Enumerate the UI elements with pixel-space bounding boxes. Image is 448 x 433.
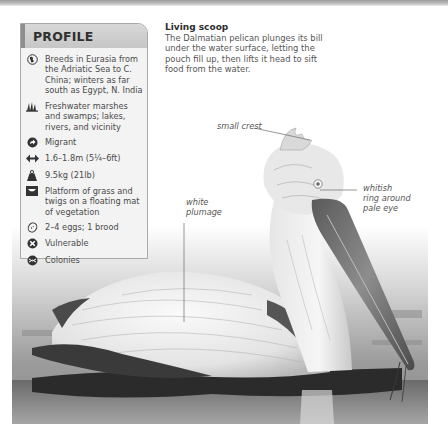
profile-item-wingspan: 1.6–1.8m (5¼–6ft) — [25, 153, 143, 164]
photo-caption: Living scoop The Dalmatian pelican plung… — [165, 22, 325, 75]
profile-status-text: Vulnerable — [45, 238, 143, 248]
marsh-grass-icon — [25, 101, 39, 112]
wingspan-icon — [25, 153, 39, 164]
egg-icon — [25, 222, 39, 233]
profile-eggs-text: 2–4 eggs; 1 brood — [45, 222, 143, 232]
annotation-eye-line1: whitish — [363, 183, 411, 193]
annotation-eye-line2: ring around — [363, 193, 411, 203]
status-cross-icon — [25, 238, 39, 249]
nest-icon — [25, 186, 39, 197]
weight-icon — [25, 170, 39, 181]
profile-item-nest: Platform of grass and twigs on a floatin… — [25, 186, 143, 217]
profile-item-status: Vulnerable — [25, 238, 143, 249]
caption-body: The Dalmatian pelican plunges its bill u… — [165, 33, 325, 75]
profile-item-range: Breeds in Eurasia from the Adriatic Sea … — [25, 54, 143, 96]
colonies-icon — [25, 255, 39, 266]
profile-title: PROFILE — [21, 24, 147, 48]
profile-panel: PROFILE Breeds in Eurasia from the Adria… — [20, 23, 148, 259]
page-top-rule — [0, 0, 448, 6]
annotation-eye-line3: pale eye — [363, 203, 411, 213]
profile-wingspan-text: 1.6–1.8m (5¼–6ft) — [45, 153, 143, 163]
annotation-small-crest: small crest — [217, 121, 262, 131]
profile-social-text: Colonies — [45, 255, 143, 265]
profile-list: Breeds in Eurasia from the Adriatic Sea … — [21, 48, 147, 266]
profile-nest-text: Platform of grass and twigs on a floatin… — [45, 186, 143, 217]
annotation-white-plumage: white plumage — [186, 197, 222, 217]
annotation-eye-ring: whitish ring around pale eye — [363, 183, 411, 213]
profile-habitat-text: Freshwater marshes and swamps; lakes, ri… — [45, 101, 143, 132]
profile-item-migration: Migrant — [25, 137, 143, 148]
profile-weight-text: 9.5kg (21lb) — [45, 170, 143, 180]
profile-item-weight: 9.5kg (21lb) — [25, 170, 143, 181]
annotation-plumage-line1: white — [186, 197, 222, 207]
profile-item-social: Colonies — [25, 255, 143, 266]
caption-title: Living scoop — [165, 22, 325, 33]
globe-icon — [25, 54, 39, 65]
profile-item-eggs: 2–4 eggs; 1 brood — [25, 222, 143, 233]
profile-range-text: Breeds in Eurasia from the Adriatic Sea … — [45, 54, 143, 96]
annotation-plumage-line2: plumage — [186, 207, 222, 217]
migrant-arrow-icon — [25, 137, 39, 148]
profile-item-habitat: Freshwater marshes and swamps; lakes, ri… — [25, 101, 143, 132]
profile-migration-text: Migrant — [45, 137, 143, 147]
